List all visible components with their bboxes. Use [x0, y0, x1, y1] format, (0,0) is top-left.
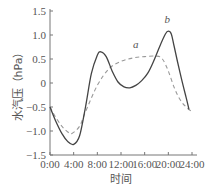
series-labels: ab [133, 13, 170, 50]
y-tick-label: 0 [41, 77, 47, 89]
x-tick-label: 8:00 [88, 158, 108, 170]
y-axis-ticks: 1.51.00.50−0.5−1.0−1.5 [26, 5, 53, 161]
series-line-b [50, 31, 189, 144]
x-tick-label: 20:00 [156, 158, 182, 170]
y-tick-label: 0.5 [32, 53, 46, 65]
x-tick-label: 16:00 [132, 158, 158, 170]
x-tick-label: 4:00 [64, 158, 84, 170]
y-tick-label: 1.0 [32, 29, 46, 41]
series-lines [50, 31, 192, 144]
y-tick-label: −1.0 [26, 125, 46, 137]
x-tick-label: 0:00 [40, 158, 60, 170]
series-line-a [50, 56, 192, 134]
series-label-a: a [133, 38, 139, 50]
x-axis-title: 时间 [110, 173, 132, 186]
series-label-b: b [164, 13, 170, 25]
x-tick-label: 24:00 [179, 158, 205, 170]
y-axis-title: 水汽压（hPa） [11, 47, 25, 122]
x-tick-label: 12:00 [108, 158, 134, 170]
vapor-pressure-chart: 1.51.00.50−0.5−1.0−1.5 0:004:008:0012:00… [0, 0, 210, 190]
y-tick-label: −0.5 [26, 101, 46, 113]
y-tick-label: 1.5 [32, 5, 46, 17]
